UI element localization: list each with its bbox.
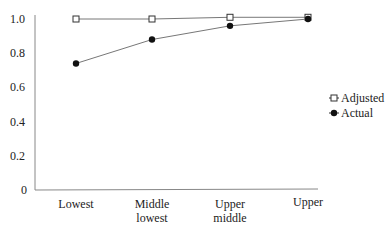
x-tick-label: Upper [215,197,245,211]
filled-circle-marker [73,60,79,66]
filled-circle-marker [305,16,311,22]
legend-label: Actual [341,106,374,120]
x-tick-label: Lowest [58,197,94,211]
legend-label: Adjusted [341,91,384,105]
x-axis-labels: LowestMiddlelowestUppermiddleUpper [58,195,323,225]
y-tick-label: 0 [21,183,27,197]
x-tick-label: Upper [293,195,323,209]
chart-legend: AdjustedActual [329,91,384,120]
y-tick-label: 0.2 [10,149,25,163]
x-axis-line [35,189,318,190]
y-axis-ticks: 00.20.40.60.81.0 [10,12,27,197]
y-tick-label: 1.0 [10,12,25,26]
y-tick-label: 0.4 [10,115,25,129]
legend-filled-circle-icon [331,110,337,116]
open-square-marker [149,16,155,22]
open-square-marker [73,16,79,22]
line-chart: 00.20.40.60.81.0 LowestMiddlelowestUpper… [0,0,391,233]
chart-series [73,14,311,66]
x-tick-label: Middle [135,197,170,211]
actual-line [76,19,308,63]
open-square-marker [227,14,233,20]
filled-circle-marker [149,36,155,42]
y-tick-label: 0.8 [10,46,25,60]
y-tick-label: 0.6 [10,80,25,94]
x-tick-label: middle [213,211,246,225]
adjusted-line [76,17,308,19]
chart-axes [35,15,318,190]
legend-open-square-icon [331,95,337,101]
filled-circle-marker [227,23,233,29]
x-tick-label: lowest [136,211,168,225]
